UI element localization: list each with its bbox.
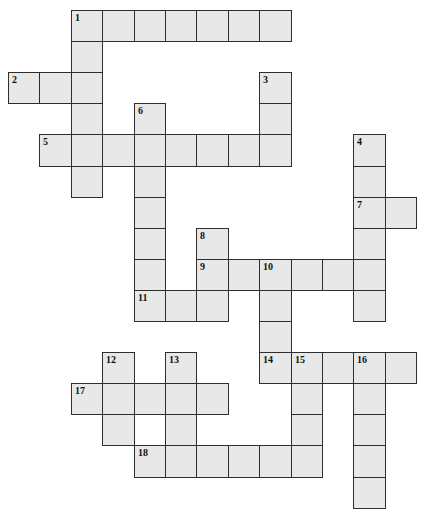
grid-cell-r0-c4[interactable]	[134, 10, 166, 42]
grid-cell-r2-c2[interactable]	[71, 72, 103, 104]
grid-cell-r8-c8[interactable]: 10	[259, 259, 292, 291]
grid-cell-r8-c6[interactable]: 9	[196, 259, 229, 291]
cell-entry	[354, 415, 385, 445]
grid-cell-r0-c2[interactable]: 1	[71, 10, 103, 42]
grid-cell-r13-c9[interactable]	[291, 414, 323, 446]
grid-cell-r12-c11[interactable]	[353, 383, 386, 415]
grid-cell-r9-c6[interactable]	[196, 290, 229, 322]
grid-cell-r9-c4[interactable]: 11	[134, 290, 166, 322]
cell-entry	[197, 229, 228, 259]
grid-cell-r11-c5[interactable]: 13	[165, 352, 197, 384]
grid-cell-r10-c8[interactable]	[259, 321, 292, 353]
grid-cell-r11-c9[interactable]: 15	[291, 352, 323, 384]
grid-cell-r3-c2[interactable]	[71, 103, 103, 135]
grid-cell-r14-c11[interactable]	[353, 445, 386, 478]
grid-cell-r12-c3[interactable]	[102, 383, 135, 415]
grid-cell-r4-c5[interactable]	[165, 134, 197, 167]
grid-cell-r8-c9[interactable]	[291, 259, 323, 291]
grid-cell-r4-c1[interactable]: 5	[39, 134, 72, 167]
grid-cell-r4-c2[interactable]	[71, 134, 103, 167]
grid-cell-r12-c2[interactable]: 17	[71, 383, 103, 415]
cell-entry	[229, 11, 259, 41]
cell-entry	[323, 260, 353, 290]
grid-cell-r9-c5[interactable]	[165, 290, 197, 322]
crossword-grid: 123475611891014121315161718	[0, 0, 425, 514]
grid-cell-r14-c5[interactable]	[165, 445, 197, 478]
grid-cell-r4-c11[interactable]: 4	[353, 134, 386, 167]
grid-cell-r7-c6[interactable]: 8	[196, 228, 229, 260]
grid-cell-r12-c9[interactable]	[291, 383, 323, 415]
grid-cell-r4-c6[interactable]	[196, 134, 229, 167]
cell-entry	[260, 322, 291, 352]
cell-entry	[197, 291, 228, 321]
grid-cell-r14-c4[interactable]: 18	[134, 445, 166, 478]
cell-entry	[229, 446, 259, 477]
cell-entry	[260, 11, 291, 41]
grid-cell-r14-c9[interactable]	[291, 445, 323, 478]
grid-cell-r2-c8[interactable]: 3	[259, 72, 292, 104]
grid-cell-r8-c11[interactable]	[353, 259, 386, 291]
cell-entry	[72, 11, 102, 41]
grid-cell-r2-c1[interactable]	[39, 72, 72, 104]
grid-cell-r4-c3[interactable]	[102, 134, 135, 167]
cell-entry	[260, 353, 291, 383]
cell-entry	[103, 135, 134, 166]
grid-cell-r11-c11[interactable]: 16	[353, 352, 386, 384]
grid-cell-r8-c4[interactable]	[134, 259, 166, 291]
grid-cell-r11-c8[interactable]: 14	[259, 352, 292, 384]
grid-cell-r12-c4[interactable]	[134, 383, 166, 415]
cell-entry	[323, 353, 353, 383]
grid-cell-r5-c2[interactable]	[71, 166, 103, 198]
grid-cell-r12-c5[interactable]	[165, 383, 197, 415]
grid-cell-r4-c8[interactable]	[259, 134, 292, 167]
cell-entry	[260, 260, 291, 290]
cell-entry	[103, 415, 134, 445]
cell-entry	[354, 353, 385, 383]
cell-entry	[72, 167, 102, 197]
grid-cell-r4-c7[interactable]	[228, 134, 260, 167]
grid-cell-r11-c3[interactable]: 12	[102, 352, 135, 384]
cell-entry	[135, 446, 165, 477]
grid-cell-r5-c4[interactable]	[134, 166, 166, 198]
grid-cell-r2-c0[interactable]: 2	[8, 72, 40, 104]
grid-cell-r6-c11[interactable]: 7	[353, 197, 386, 229]
grid-cell-r8-c10[interactable]	[322, 259, 354, 291]
cell-entry	[72, 42, 102, 72]
cell-entry	[72, 104, 102, 134]
grid-cell-r14-c8[interactable]	[259, 445, 292, 478]
cell-entry	[135, 167, 165, 197]
grid-cell-r12-c6[interactable]	[196, 383, 229, 415]
grid-cell-r4-c4[interactable]	[134, 134, 166, 167]
grid-cell-r11-c12[interactable]	[385, 352, 417, 384]
cell-entry	[135, 260, 165, 290]
grid-cell-r0-c6[interactable]	[196, 10, 229, 42]
grid-cell-r14-c6[interactable]	[196, 445, 229, 478]
cell-entry	[9, 73, 39, 103]
grid-cell-r9-c11[interactable]	[353, 290, 386, 322]
cell-entry	[135, 384, 165, 414]
grid-cell-r13-c3[interactable]	[102, 414, 135, 446]
grid-cell-r5-c11[interactable]	[353, 166, 386, 198]
cell-entry	[292, 353, 322, 383]
cell-entry	[386, 198, 416, 228]
grid-cell-r11-c10[interactable]	[322, 352, 354, 384]
grid-cell-r14-c7[interactable]	[228, 445, 260, 478]
grid-cell-r8-c7[interactable]	[228, 259, 260, 291]
grid-cell-r0-c3[interactable]	[102, 10, 135, 42]
grid-cell-r3-c4[interactable]: 6	[134, 103, 166, 135]
grid-cell-r0-c7[interactable]	[228, 10, 260, 42]
grid-cell-r15-c11[interactable]	[353, 477, 386, 509]
grid-cell-r0-c5[interactable]	[165, 10, 197, 42]
cell-entry	[166, 446, 196, 477]
grid-cell-r0-c8[interactable]	[259, 10, 292, 42]
grid-cell-r1-c2[interactable]	[71, 41, 103, 73]
grid-cell-r6-c12[interactable]	[385, 197, 417, 229]
grid-cell-r3-c8[interactable]	[259, 103, 292, 135]
grid-cell-r7-c11[interactable]	[353, 228, 386, 260]
grid-cell-r13-c11[interactable]	[353, 414, 386, 446]
grid-cell-r6-c4[interactable]	[134, 197, 166, 229]
grid-cell-r13-c5[interactable]	[165, 414, 197, 446]
grid-cell-r7-c4[interactable]	[134, 228, 166, 260]
grid-cell-r9-c8[interactable]	[259, 290, 292, 322]
cell-entry	[166, 135, 196, 166]
